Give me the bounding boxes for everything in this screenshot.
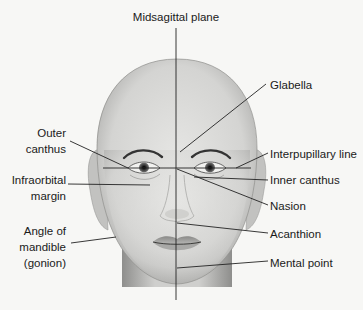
label-inner-canthus: Inner canthus [270,172,340,188]
label-acanthion: Acanthion [270,226,321,242]
label-angle-of-mandible: Angle of mandible (gonion) [19,223,66,271]
label-glabella: Glabella [270,77,312,93]
label-infraorbital-margin: Infraorbital margin [12,172,66,204]
gonion-leader [71,237,116,243]
label-mental-point: Mental point [270,255,333,271]
anatomy-diagram: Midsagittal plane Glabella Outer canthus… [0,0,363,310]
label-midsagittal-plane: Midsagittal plane [133,9,219,25]
label-interpupillary-line: Interpupillary line [270,146,357,162]
label-nasion: Nasion [270,198,306,214]
label-outer-canthus: Outer canthus [26,125,66,157]
